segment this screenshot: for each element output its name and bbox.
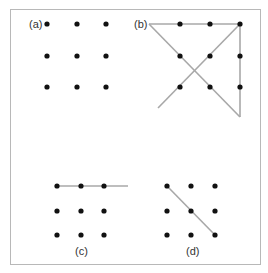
nine-dot-puzzle-diagram: (a)(b)(c)(d)	[0, 0, 268, 273]
panel-d-dot	[212, 183, 217, 188]
panel-c-dot	[78, 183, 83, 188]
panel-a-dot	[74, 21, 79, 26]
panel-b-dot	[237, 21, 242, 26]
panel-b-dot	[177, 53, 182, 58]
panel-c-dot	[54, 232, 59, 237]
panel-d-dot	[188, 208, 193, 213]
panel-b-dot	[237, 84, 242, 89]
panel-a-dot	[74, 84, 79, 89]
panel-d-dot	[188, 232, 193, 237]
panel-labels: (a)(b)(c)(d)	[29, 18, 199, 257]
panel-a-dot	[103, 21, 108, 26]
panel-b-dot	[207, 53, 212, 58]
panel-d-dot	[164, 183, 169, 188]
panel-b-dot	[207, 21, 212, 26]
panel-a-dot	[103, 84, 108, 89]
panel-a-dot	[103, 53, 108, 58]
panel-b-line	[158, 24, 240, 108]
panel-c-dot	[101, 232, 106, 237]
dot-grids	[44, 21, 242, 237]
panel-b-dot	[207, 84, 212, 89]
panel-d-dot	[164, 208, 169, 213]
panel-c-dot	[54, 183, 59, 188]
panel-c-dot	[78, 232, 83, 237]
panel-a-dot	[74, 53, 79, 58]
panel-d-dot	[164, 232, 169, 237]
panel-c-dot	[101, 183, 106, 188]
panel-b-label-text: (b)	[134, 18, 147, 30]
panel-b-dot	[237, 53, 242, 58]
panel-d-dot	[212, 208, 217, 213]
panel-d-dot	[188, 183, 193, 188]
panel-c-label-text: (c)	[75, 245, 88, 257]
panel-c-dot	[101, 208, 106, 213]
panel-b-dot	[177, 21, 182, 26]
panel-d-dot	[212, 232, 217, 237]
panel-c-dot	[78, 208, 83, 213]
panel-a-dot	[44, 84, 49, 89]
panel-a-dot	[44, 53, 49, 58]
panel-c-dot	[54, 208, 59, 213]
panel-a-dot	[44, 21, 49, 26]
panel-a-label-text: (a)	[29, 18, 42, 30]
panel-b-dot	[177, 84, 182, 89]
panel-d-label-text: (d)	[186, 245, 199, 257]
